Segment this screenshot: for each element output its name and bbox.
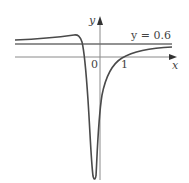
tick-label-one: 1 xyxy=(121,59,128,70)
x-axis-label: x xyxy=(172,60,178,71)
curve-right-branch xyxy=(96,47,172,176)
y-axis-label: y xyxy=(89,15,95,26)
y-axis-arrow-icon xyxy=(97,16,103,25)
function-graph xyxy=(0,0,189,183)
asymptote-label: y = 0.6 xyxy=(131,30,171,41)
origin-label: 0 xyxy=(91,59,98,70)
